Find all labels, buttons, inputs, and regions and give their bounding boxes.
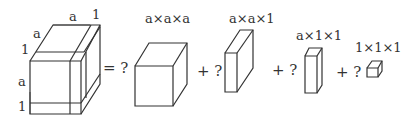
operator-plus-2: + ? bbox=[272, 63, 297, 78]
unit-cube-1-1-1 bbox=[367, 61, 382, 77]
label-left-1: 1 bbox=[18, 100, 26, 113]
label-piece-a-a-a: a×a×a bbox=[145, 12, 190, 25]
label-side-a: a bbox=[33, 27, 41, 40]
operator-plus-3: + ? bbox=[336, 65, 361, 80]
label-piece-1-1-1: 1×1×1 bbox=[355, 41, 402, 54]
diagram-canvas bbox=[0, 0, 415, 118]
operator-plus-1: + ? bbox=[197, 64, 222, 79]
label-side-1: 1 bbox=[21, 43, 29, 56]
label-piece-a-a-1: a×a×1 bbox=[229, 12, 275, 25]
cube-a-a-a bbox=[135, 43, 187, 106]
operator-equals: = ? bbox=[103, 61, 128, 76]
rod-a-1-1 bbox=[305, 48, 322, 93]
label-left-a: a bbox=[18, 75, 26, 88]
label-top-1: 1 bbox=[92, 8, 100, 21]
label-piece-a-1-1: a×1×1 bbox=[296, 29, 342, 42]
slab-a-a-1 bbox=[225, 30, 253, 92]
label-top-a: a bbox=[69, 10, 77, 23]
